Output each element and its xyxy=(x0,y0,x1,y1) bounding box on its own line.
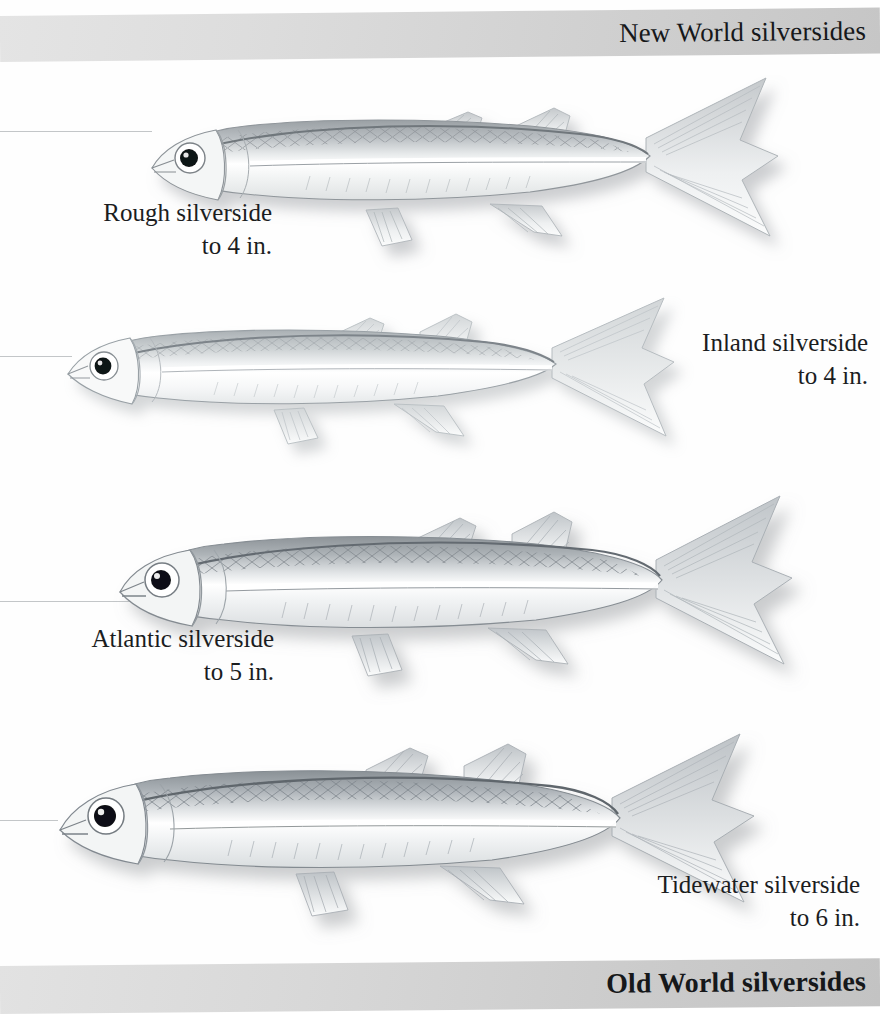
caption-tidewater-silverside: Tidewater silverside to 6 in. xyxy=(560,868,860,934)
inland-silverside-illustration xyxy=(48,278,688,458)
caption-atlantic-silverside: Atlantic silverside to 5 in. xyxy=(6,622,274,688)
header-title: New World silversides xyxy=(619,15,880,49)
caption-rough-silverside: Rough silverside to 4 in. xyxy=(10,196,272,262)
header-band: New World silversides xyxy=(0,8,880,62)
caption-inland-silverside: Inland silverside to 4 in. xyxy=(606,326,868,392)
footer-band: Old World silversides xyxy=(0,958,880,1014)
footer-title: Old World silversides xyxy=(606,965,880,1001)
